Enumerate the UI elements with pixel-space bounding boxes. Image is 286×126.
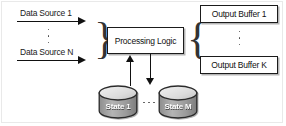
output-buffer-first-label: Output Buffer 1 [212, 9, 267, 19]
architecture-diagram: Data Source 1 Data Source N } Processing… [0, 0, 286, 126]
state-read-arrow-line [130, 62, 131, 86]
state-write-arrow-head [146, 78, 154, 85]
data-source-first-label: Data Source 1 [20, 9, 72, 18]
cylinder-icon [98, 85, 138, 119]
output-buffer-first-box: Output Buffer 1 [200, 5, 278, 23]
state-read-arrow-head [126, 55, 134, 62]
processing-logic-label: Processing Logic [115, 36, 177, 46]
output-group-brace: { [187, 17, 208, 61]
output-buffer-ellipsis-icon [238, 31, 241, 45]
data-source-last-arrow-head [78, 56, 86, 64]
processing-logic-box: Processing Logic [107, 27, 184, 54]
cylinder-icon [158, 85, 198, 119]
data-source-first-arrow-line [17, 21, 79, 22]
state-write-arrow-line [150, 54, 151, 78]
state-store-first: State 1 [98, 85, 138, 119]
data-source-first-arrow-head [78, 17, 86, 25]
data-source-ellipsis-icon [47, 29, 50, 43]
data-source-last-label: Data Source N [20, 48, 73, 57]
state-store-ellipsis-icon [143, 101, 155, 104]
output-buffer-last-label: Output Buffer K [211, 60, 266, 70]
state-store-last: State M [158, 85, 198, 119]
output-buffer-last-box: Output Buffer K [200, 56, 278, 74]
data-source-last-arrow-line [17, 60, 79, 61]
